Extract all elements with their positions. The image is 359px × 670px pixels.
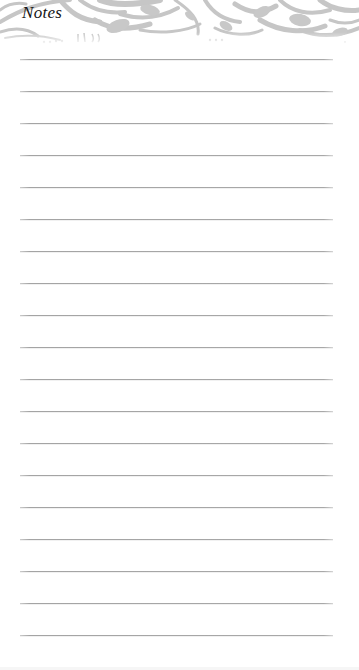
ruled-line xyxy=(20,155,333,156)
ruled-line xyxy=(20,283,333,284)
ruled-line xyxy=(20,219,333,220)
ruled-line xyxy=(20,603,333,604)
ruled-line xyxy=(20,443,333,444)
ruled-line xyxy=(20,379,333,380)
ruled-line xyxy=(20,123,333,124)
ruled-writing-area[interactable] xyxy=(0,0,359,670)
ruled-line xyxy=(20,251,333,252)
ruled-line xyxy=(20,475,333,476)
ruled-line xyxy=(20,187,333,188)
ruled-line xyxy=(20,59,333,60)
ruled-line xyxy=(20,411,333,412)
ruled-line xyxy=(20,347,333,348)
ruled-line xyxy=(20,635,333,636)
ruled-line xyxy=(20,315,333,316)
ruled-line xyxy=(20,571,333,572)
ruled-line xyxy=(20,539,333,540)
ruled-line xyxy=(20,507,333,508)
ruled-line xyxy=(20,91,333,92)
